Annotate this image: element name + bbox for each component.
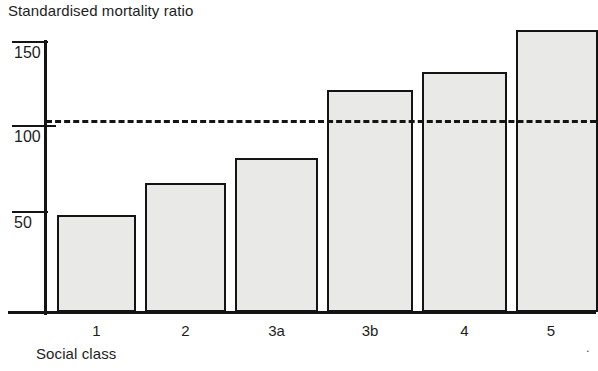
y-tick-100 [12,125,56,127]
bar-class-4 [422,72,507,312]
x-axis-title: Social class [36,345,116,362]
y-tick-150 [12,41,48,43]
bar-class-2 [145,183,226,312]
edge-mark: . [586,340,590,355]
reference-line [46,120,596,123]
x-tick-label-5: 5 [516,322,586,339]
x-tick-label-3a: 3a [235,322,318,339]
y-tick-50 [12,211,48,213]
y-tick-label-100: 100 [14,128,41,146]
x-tick-label-1: 1 [57,322,136,339]
y-axis-line [44,40,47,315]
y-tick-label-50: 50 [14,214,32,232]
x-tick-label-2: 2 [145,322,226,339]
bar-class-3a [235,158,318,312]
x-tick-label-3b: 3b [327,322,413,339]
x-tick-label-4: 4 [422,322,507,339]
y-tick-label-150: 150 [14,44,41,62]
bar-class-1 [57,215,136,312]
bar-class-5 [516,30,598,312]
bar-class-3b [327,90,413,312]
